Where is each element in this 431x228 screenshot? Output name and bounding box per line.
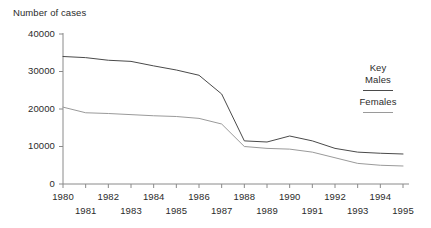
y-axis-title: Number of cases <box>13 7 86 18</box>
x-axis-tick-label: 1988 <box>234 191 256 202</box>
y-axis-tick-label: 10000 <box>28 140 55 151</box>
x-axis-tick-label: 1984 <box>143 191 165 202</box>
x-axis-tick-label: 1992 <box>324 191 346 202</box>
y-axis-tick-label: 40000 <box>28 28 55 39</box>
y-axis-tick-label: 0 <box>50 178 55 189</box>
x-axis-tick-label: 1985 <box>166 205 188 216</box>
legend-swatch-females <box>363 112 393 113</box>
x-axis-tick-label: 1993 <box>347 205 369 216</box>
x-axis-tick-label: 1982 <box>98 191 120 202</box>
x-axis-tick-label: 1987 <box>211 205 233 216</box>
x-axis-tick-label: 1980 <box>52 191 74 202</box>
x-axis-tick-label: 1990 <box>279 191 301 202</box>
y-axis-tick-label: 30000 <box>28 65 55 76</box>
x-axis-tick-label: 1995 <box>392 205 414 216</box>
legend-entry-females: Females <box>330 96 426 113</box>
y-axis-ticks <box>59 34 63 184</box>
legend-entry-males: Males <box>330 74 426 91</box>
x-axis-tick-label: 1981 <box>75 205 97 216</box>
legend-label-males: Males <box>330 74 426 86</box>
y-axis-tick-label: 20000 <box>28 103 55 114</box>
chart-legend: Key Males Females <box>330 62 426 118</box>
line-chart-figure: Number of cases 010000200003000040000 19… <box>0 0 431 228</box>
x-axis-ticks <box>63 184 403 188</box>
legend-swatch-males <box>363 90 393 91</box>
x-axis-tick-label: 1994 <box>370 191 392 202</box>
legend-label-females: Females <box>330 96 426 108</box>
x-axis-tick-label: 1986 <box>188 191 210 202</box>
x-axis-tick-label: 1991 <box>302 205 324 216</box>
x-axis-tick-label: 1983 <box>120 205 142 216</box>
x-axis-tick-label: 1989 <box>256 205 278 216</box>
legend-title: Key <box>330 62 426 74</box>
